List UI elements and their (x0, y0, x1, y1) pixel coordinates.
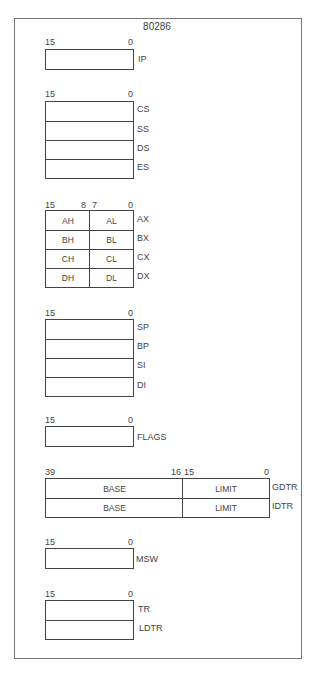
register-ldtr (46, 620, 133, 639)
register-label-bx: BX (137, 233, 149, 243)
register-label-idtr: IDTR (272, 501, 293, 511)
register-label-es: ES (137, 162, 149, 172)
bit-label-15: 15 (45, 537, 55, 547)
bit-label-15: 15 (45, 37, 55, 47)
register-label-ax: AX (137, 214, 149, 224)
register-si (46, 358, 133, 377)
register-label-dx: DX (137, 271, 150, 281)
bit-label-0: 0 (128, 37, 133, 47)
register-bx: BH BL (46, 230, 133, 249)
bit-label-0: 0 (128, 200, 133, 210)
register-label-tr: TR (138, 604, 150, 614)
bit-label-0: 0 (264, 467, 269, 477)
bit-label-15: 15 (184, 467, 194, 477)
bit-label-15: 15 (45, 415, 55, 425)
register-label-ss: SS (137, 124, 149, 134)
register-label-ip: IP (138, 54, 147, 64)
bit-label-15: 15 (45, 308, 55, 318)
register-label-ldtr: LDTR (139, 623, 163, 633)
register-label-cs: CS (137, 104, 150, 114)
bit-label-39: 39 (45, 467, 55, 477)
register-cx: CH CL (46, 249, 133, 268)
descriptor-table-stack: BASE LIMIT BASE LIMIT (45, 478, 270, 518)
bit-label-0: 0 (128, 589, 133, 599)
register-tr (46, 601, 133, 620)
register-sp (46, 320, 133, 339)
register-label-flags: FLAGS (137, 432, 167, 442)
bit-label-15: 15 (45, 589, 55, 599)
register-bl: BL (90, 231, 133, 249)
register-es (46, 159, 133, 178)
diagram-title: 80286 (0, 21, 314, 32)
register-ip (45, 49, 134, 70)
register-label-bp: BP (137, 341, 149, 351)
register-gdtr: BASE LIMIT (46, 479, 269, 498)
gdtr-base: BASE (46, 479, 183, 498)
register-cl: CL (90, 250, 133, 268)
register-ss (46, 121, 133, 140)
general-register-stack: AH AL BH BL CH CL DH DL (45, 210, 134, 288)
register-label-si: SI (137, 360, 146, 370)
register-ch: CH (46, 250, 90, 268)
bit-label-0: 0 (128, 415, 133, 425)
register-label-gdtr: GDTR (272, 482, 298, 492)
register-label-sp: SP (137, 322, 149, 332)
register-idtr: BASE LIMIT (46, 498, 269, 517)
register-label-msw: MSW (136, 554, 158, 564)
register-cs (46, 102, 133, 121)
register-bp (46, 339, 133, 358)
segment-register-stack (45, 101, 134, 179)
gdtr-limit: LIMIT (183, 479, 269, 498)
register-label-cx: CX (137, 252, 150, 262)
register-dl: DL (90, 269, 133, 287)
register-label-ds: DS (137, 143, 150, 153)
register-ax: AH AL (46, 211, 133, 230)
idtr-base: BASE (46, 499, 183, 517)
register-bh: BH (46, 231, 90, 249)
register-dx: DH DL (46, 268, 133, 287)
bit-label-7: 7 (92, 200, 97, 210)
bit-label-0: 0 (128, 537, 133, 547)
idtr-limit: LIMIT (183, 499, 269, 517)
bit-label-16: 16 (171, 467, 181, 477)
task-register-stack (45, 600, 134, 640)
register-al: AL (90, 211, 133, 230)
bit-label-0: 0 (128, 308, 133, 318)
register-dh: DH (46, 269, 90, 287)
pointer-index-stack (45, 319, 134, 397)
bit-label-15: 15 (45, 89, 55, 99)
bit-label-15: 15 (45, 200, 55, 210)
register-ah: AH (46, 211, 90, 230)
register-msw (45, 548, 134, 569)
register-flags (45, 426, 134, 447)
bit-label-8: 8 (81, 200, 86, 210)
register-di (46, 377, 133, 396)
register-label-di: DI (137, 380, 146, 390)
bit-label-0: 0 (128, 89, 133, 99)
register-ds (46, 140, 133, 159)
